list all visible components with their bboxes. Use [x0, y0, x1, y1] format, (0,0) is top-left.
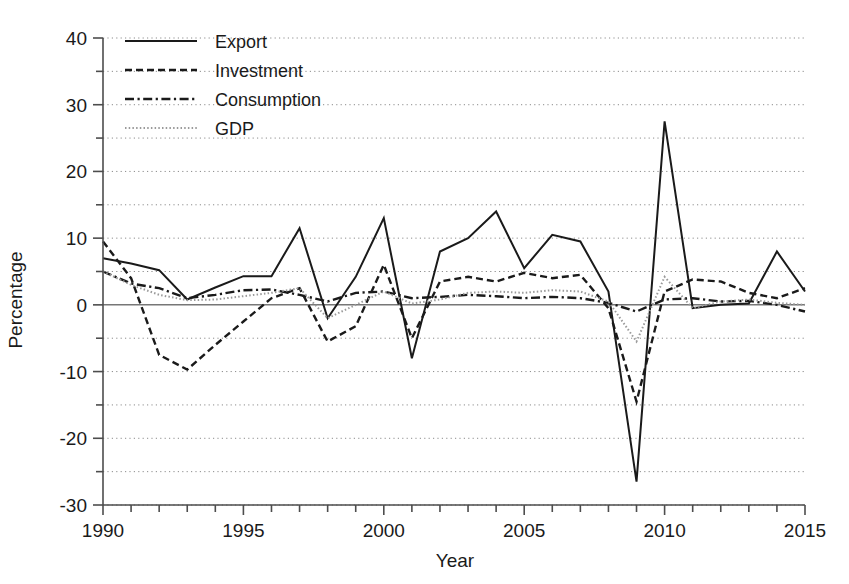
y-axis-ticks: -30-20-10010203040: [60, 28, 103, 516]
x-tick-label: 2000: [363, 520, 405, 541]
x-tick-label: 2005: [503, 520, 545, 541]
x-tick-label: 2010: [643, 520, 685, 541]
y-tick-label: 10: [66, 228, 87, 249]
legend-label-gdp: GDP: [215, 119, 254, 139]
x-tick-label: 1995: [222, 520, 264, 541]
legend-label-consumption: Consumption: [215, 90, 321, 110]
y-tick-label: 0: [76, 295, 87, 316]
axes: [103, 38, 805, 505]
chart-container: -30-20-10010203040 199019952000200520102…: [0, 0, 849, 584]
x-tick-label: 2015: [784, 520, 826, 541]
series-line-investment: [103, 241, 805, 401]
x-tick-label: 1990: [82, 520, 124, 541]
y-axis-title: Percentage: [5, 251, 26, 348]
line-chart: -30-20-10010203040 199019952000200520102…: [0, 0, 849, 584]
legend-label-investment: Investment: [215, 61, 303, 81]
y-tick-label: 40: [66, 28, 87, 49]
series-lines: [103, 121, 805, 481]
gridlines: [103, 38, 805, 505]
y-tick-label: 20: [66, 161, 87, 182]
legend: ExportInvestmentConsumptionGDP: [125, 32, 321, 139]
x-axis-title: Year: [436, 550, 475, 571]
y-tick-label: -30: [60, 495, 87, 516]
legend-label-export: Export: [215, 32, 267, 52]
series-line-export: [103, 121, 805, 481]
x-axis-ticks: 199019952000200520102015: [82, 505, 826, 541]
y-tick-label: -20: [60, 428, 87, 449]
y-tick-label: -10: [60, 362, 87, 383]
y-tick-label: 30: [66, 95, 87, 116]
